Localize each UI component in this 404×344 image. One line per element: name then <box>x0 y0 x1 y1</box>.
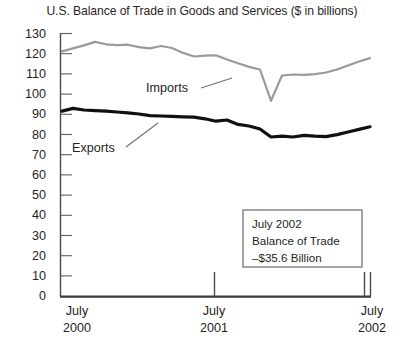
series-line-exports <box>62 108 370 137</box>
x-tick-label-line2: 2002 <box>358 321 386 335</box>
y-tick-label: 40 <box>32 208 46 222</box>
y-tick-label: 100 <box>25 87 46 101</box>
y-tick-label: 20 <box>32 249 46 263</box>
x-axis-ticks <box>215 272 371 296</box>
y-tick-label: 50 <box>32 188 46 202</box>
leader-line-exports <box>126 123 158 147</box>
x-tick-label-line1: July <box>66 304 89 318</box>
y-tick-label: 10 <box>32 269 46 283</box>
y-axis-tick-labels: 130 120 110 100 90 80 70 60 50 40 30 20 … <box>25 27 46 304</box>
annotation-line-1: July 2002 <box>252 217 302 230</box>
annotation-line-2: Balance of Trade <box>252 234 340 247</box>
y-axis-ticks <box>60 34 72 276</box>
y-tick-label: 30 <box>32 229 46 243</box>
x-tick-label-line2: 2000 <box>63 321 91 335</box>
series-line-imports <box>62 42 370 101</box>
y-tick-label: 90 <box>32 107 46 121</box>
annotation-box: July 2002 Balance of Trade –$35.6 Billio… <box>243 210 362 267</box>
x-axis-tick-labels: July 2000 July 2001 July 2002 <box>63 304 386 335</box>
y-tick-label: 130 <box>25 27 46 41</box>
annotation-line-3: –$35.6 Billion <box>252 251 322 264</box>
y-tick-label: 80 <box>32 128 46 142</box>
leader-line-imports <box>201 78 232 88</box>
y-tick-label: 120 <box>25 47 46 61</box>
series-label-exports: Exports <box>72 141 115 155</box>
y-tick-label: 110 <box>26 67 46 81</box>
x-tick-label-line2: 2001 <box>200 321 228 335</box>
x-tick-label-line1: July <box>361 304 384 318</box>
chart-plot-area: 130 120 110 100 90 80 70 60 50 40 30 20 … <box>0 0 404 344</box>
y-tick-label: 70 <box>32 148 46 162</box>
series-label-imports-group: Imports <box>146 78 232 95</box>
series-label-exports-group: Exports <box>72 123 158 155</box>
chart-container: U.S. Balance of Trade in Goods and Servi… <box>0 0 404 344</box>
y-tick-label: 0 <box>39 289 46 303</box>
y-tick-label: 60 <box>32 168 46 182</box>
x-tick-label-line1: July <box>203 304 226 318</box>
series-label-imports: Imports <box>146 81 188 95</box>
